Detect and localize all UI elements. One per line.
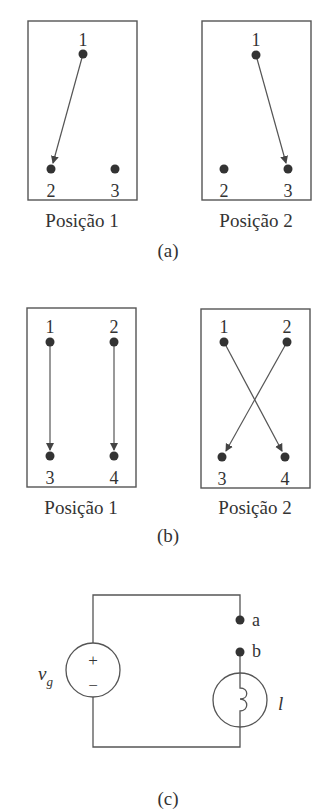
terminal-2-label: 2 [220, 181, 229, 201]
terminal-2-dot [283, 338, 292, 347]
figure-caption: (a) [157, 240, 178, 262]
figure-b-position-2: 1 2 3 4 Posição 2 [201, 309, 310, 518]
terminal-2-dot [220, 165, 229, 174]
terminal-4-label: 4 [110, 468, 119, 488]
terminal-3-dot [111, 165, 120, 174]
terminal-2-dot [47, 165, 56, 174]
top-wire [93, 595, 240, 643]
position-label: Posição 1 [44, 497, 117, 518]
terminal-3-dot [46, 452, 55, 461]
position-label: Posição 1 [45, 210, 118, 231]
source-label-subscript: g [46, 674, 53, 689]
terminal-b-dot [236, 648, 245, 657]
figure-caption: (b) [157, 525, 179, 547]
terminal-4-dot [110, 452, 119, 461]
figure-a-position-2: 1 2 3 Posição 2 [202, 21, 311, 231]
position-label: Posição 2 [218, 497, 291, 518]
figure-b: 1 2 3 4 Posição 1 1 2 3 4 Posição 2 [27, 308, 310, 547]
connection-arrow-1-4 [224, 342, 282, 451]
terminal-2-dot [110, 338, 119, 347]
position-label: Posição 2 [219, 210, 292, 231]
terminal-1-dot [46, 338, 55, 347]
terminal-2-label: 2 [110, 317, 119, 337]
terminal-4-dot [281, 453, 290, 462]
figure-b-position-1: 1 2 3 4 Posição 1 [27, 308, 136, 518]
figure-a-position-1: 1 2 3 Posição 1 [28, 21, 137, 231]
figure-caption: (c) [157, 788, 178, 810]
terminal-3-label: 3 [46, 468, 55, 488]
terminal-1-dot [220, 338, 229, 347]
terminal-2-label: 2 [47, 181, 56, 201]
terminal-1-dot [252, 51, 261, 60]
terminal-4-label: 4 [281, 469, 290, 489]
minus-sign: − [88, 676, 98, 695]
switch-diagrams: 1 2 3 Posição 1 1 2 3 Posição 2 (a) 1 [0, 0, 323, 811]
terminal-1-label: 1 [252, 30, 261, 50]
terminal-1-label: 1 [220, 317, 229, 337]
connection-arrow-2-3 [226, 342, 287, 451]
terminal-3-dot [218, 453, 227, 462]
terminal-1-label: 1 [79, 30, 88, 50]
terminal-1-label: 1 [46, 317, 55, 337]
terminal-a-dot [236, 616, 245, 625]
terminal-3-label: 3 [284, 181, 293, 201]
source-label: vg [38, 663, 53, 689]
lamp: l [213, 673, 283, 727]
connection-arrow [53, 54, 83, 163]
bottom-wire [93, 697, 240, 747]
terminal-1-dot [79, 50, 88, 59]
terminal-2-label: 2 [283, 317, 292, 337]
terminal-b-label: b [252, 641, 261, 661]
filament-icon [240, 673, 247, 727]
figure-c-circuit: + − vg a b l (c) [38, 595, 283, 810]
terminal-3-label: 3 [111, 181, 120, 201]
switch-box [27, 308, 136, 487]
connection-arrow [256, 55, 286, 163]
figure-a: 1 2 3 Posição 1 1 2 3 Posição 2 (a) [28, 21, 311, 262]
plus-sign: + [88, 651, 98, 670]
terminal-3-label: 3 [218, 469, 227, 489]
terminal-3-dot [284, 165, 293, 174]
lamp-label: l [278, 693, 283, 714]
terminal-a-label: a [252, 610, 260, 630]
voltage-source: + − vg [38, 643, 120, 697]
